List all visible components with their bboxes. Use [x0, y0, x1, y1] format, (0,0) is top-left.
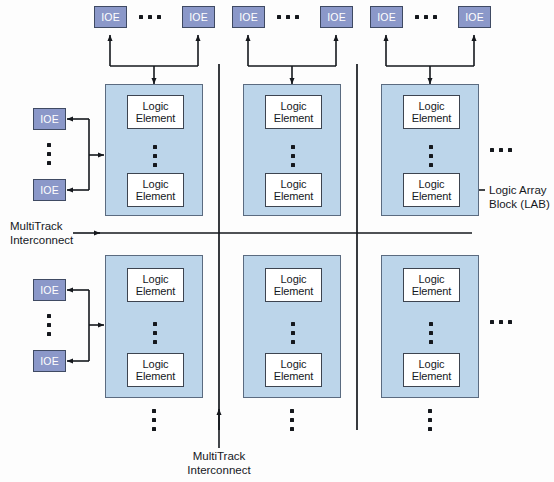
le-label-line2: Element: [274, 285, 314, 298]
lab-r1c1[interactable]: Logic Element Logic Element: [105, 84, 203, 216]
logic-element-r2c1-top[interactable]: Logic Element: [127, 268, 184, 302]
ellipsis-lab-r1c1: [153, 145, 157, 167]
left-ioe-bus-row2: [67, 290, 104, 361]
ioe-left-1b[interactable]: IOE: [33, 179, 66, 201]
multitrack-v-line1: MultiTrack: [171, 449, 267, 463]
top-ioe-bus-col1: [110, 35, 198, 84]
multitrack-h-line1: MultiTrack: [10, 219, 73, 233]
logic-element-r1c3-top[interactable]: Logic Element: [403, 95, 460, 129]
ellipsis-top-group-3: [415, 15, 437, 19]
multitrack-v-line2: Interconnect: [171, 463, 267, 477]
logic-element-r2c3-bottom[interactable]: Logic Element: [403, 353, 460, 387]
ioe-top-3a[interactable]: IOE: [370, 6, 403, 28]
le-label-line1: Logic: [419, 178, 445, 191]
ellipsis-lab-r2c2: [291, 322, 295, 344]
le-label-line2: Element: [136, 285, 176, 298]
le-label-line1: Logic: [143, 358, 169, 371]
label-multitrack-interconnect-horizontal: MultiTrack Interconnect: [10, 219, 73, 247]
logic-element-r1c2-top[interactable]: Logic Element: [265, 95, 322, 129]
le-label-line2: Element: [274, 112, 314, 125]
fpga-architecture-diagram: IOE IOE IOE IOE IOE IOE IOE IOE IOE IOE …: [0, 0, 554, 482]
le-label-line2: Element: [412, 112, 452, 125]
logic-element-r2c1-bottom[interactable]: Logic Element: [127, 353, 184, 387]
le-label-line1: Logic: [281, 273, 307, 286]
le-label-line1: Logic: [143, 178, 169, 191]
lab-r2c2[interactable]: Logic Element Logic Element: [243, 255, 341, 398]
le-label-line2: Element: [136, 370, 176, 383]
logic-element-r1c1-bottom[interactable]: Logic Element: [127, 173, 184, 207]
le-label-line2: Element: [412, 285, 452, 298]
lab-r2c3[interactable]: Logic Element Logic Element: [381, 255, 479, 398]
ellipsis-bottom-col3: [428, 409, 432, 431]
ellipsis-top-group-1: [139, 15, 161, 19]
ioe-top-3b[interactable]: IOE: [458, 6, 491, 28]
le-label-line1: Logic: [143, 273, 169, 286]
ellipsis-bottom-col1: [152, 409, 156, 431]
le-label-line2: Element: [274, 370, 314, 383]
ellipsis-right-row2: [490, 320, 512, 324]
top-ioe-bus-col2: [248, 35, 336, 84]
logic-element-r1c2-bottom[interactable]: Logic Element: [265, 173, 322, 207]
le-label-line2: Element: [412, 190, 452, 203]
lab-callout-line1: Logic Array: [489, 183, 550, 197]
ellipsis-lab-r1c2: [291, 145, 295, 167]
ellipsis-lab-r1c3: [429, 145, 433, 167]
le-label-line1: Logic: [281, 358, 307, 371]
left-ioe-bus-row1: [67, 119, 104, 190]
lab-r1c3[interactable]: Logic Element Logic Element: [381, 84, 479, 216]
top-ioe-bus-col3: [386, 35, 474, 84]
ellipsis-lab-r2c3: [429, 322, 433, 344]
logic-element-r1c3-bottom[interactable]: Logic Element: [403, 173, 460, 207]
ellipsis-lab-r2c1: [153, 322, 157, 344]
lab-callout-line2: Block (LAB): [489, 197, 550, 211]
ellipsis-left-group-2: [47, 314, 51, 336]
ioe-top-1a[interactable]: IOE: [94, 6, 127, 28]
ellipsis-bottom-col2: [290, 409, 294, 431]
le-label-line1: Logic: [281, 178, 307, 191]
ioe-left-2a[interactable]: IOE: [33, 279, 66, 301]
le-label-line1: Logic: [419, 100, 445, 113]
ioe-top-2a[interactable]: IOE: [232, 6, 265, 28]
lab-r1c2[interactable]: Logic Element Logic Element: [243, 84, 341, 216]
ellipsis-left-group-1: [47, 143, 51, 165]
label-multitrack-interconnect-vertical: MultiTrack Interconnect: [171, 449, 267, 477]
ioe-left-2b[interactable]: IOE: [33, 350, 66, 372]
multitrack-h-line2: Interconnect: [10, 233, 73, 247]
connector-lines-layer: [0, 0, 554, 482]
ioe-top-2b[interactable]: IOE: [320, 6, 353, 28]
ellipsis-right-row1: [490, 148, 512, 152]
le-label-line2: Element: [274, 190, 314, 203]
ellipsis-top-group-2: [277, 15, 299, 19]
logic-element-r1c1-top[interactable]: Logic Element: [127, 95, 184, 129]
le-label-line1: Logic: [419, 273, 445, 286]
le-label-line2: Element: [136, 190, 176, 203]
le-label-line1: Logic: [281, 100, 307, 113]
le-label-line1: Logic: [419, 358, 445, 371]
le-label-line2: Element: [412, 370, 452, 383]
logic-element-r2c2-top[interactable]: Logic Element: [265, 268, 322, 302]
le-label-line2: Element: [136, 112, 176, 125]
lab-r2c1[interactable]: Logic Element Logic Element: [105, 255, 203, 398]
le-label-line1: Logic: [143, 100, 169, 113]
ioe-top-1b[interactable]: IOE: [182, 6, 215, 28]
logic-element-r2c2-bottom[interactable]: Logic Element: [265, 353, 322, 387]
label-logic-array-block: Logic Array Block (LAB): [489, 183, 550, 211]
logic-element-r2c3-top[interactable]: Logic Element: [403, 268, 460, 302]
ioe-left-1a[interactable]: IOE: [33, 108, 66, 130]
